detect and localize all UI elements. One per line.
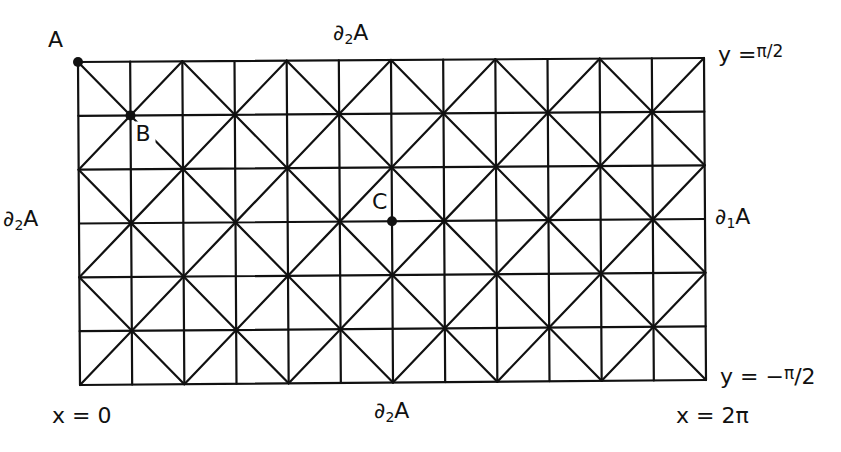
equation-prefix: y =: [718, 42, 756, 67]
set-name: A: [353, 20, 368, 45]
left-boundary-label: ∂2A: [3, 208, 38, 232]
diagonal-line: [444, 113, 497, 166]
diagonal-line: [78, 62, 131, 115]
x-two-pi-label: x = 2π: [676, 405, 749, 427]
diagonal-line: [391, 60, 444, 113]
diagonal-line: [392, 113, 444, 167]
diagonal-line: [131, 169, 183, 223]
diagonal-line: [653, 165, 705, 219]
top-line-equation: y =π/2: [718, 43, 783, 66]
diagonal-line: [548, 59, 600, 113]
diagonal-line: [184, 222, 236, 276]
diagonal-line: [601, 219, 653, 273]
partial-symbol: ∂: [374, 398, 385, 423]
diagonal-line: [79, 223, 131, 277]
subscript: 2: [385, 409, 394, 425]
point-label-c: C: [372, 191, 387, 213]
diagonal-line: [339, 114, 392, 167]
partial-symbol: ∂: [3, 206, 14, 231]
diagonal-line: [182, 61, 235, 114]
partial-symbol: ∂: [715, 204, 726, 229]
set-name: A: [735, 204, 750, 229]
diagonal-line: [602, 327, 654, 381]
diagonal-line: [495, 59, 547, 112]
equation-prefix: y = −: [720, 364, 784, 389]
diagonal-line: [444, 221, 497, 274]
diagonal-line: [445, 274, 497, 328]
diagonal-line: [236, 222, 289, 275]
diagonal-line: [549, 328, 602, 381]
diagonal-line: [288, 222, 340, 276]
bottom-boundary-label: ∂2A: [374, 400, 409, 424]
equation-value: π/2: [756, 41, 783, 61]
diagonal-line: [654, 327, 707, 380]
diagonal-line: [236, 330, 288, 383]
diagonal-line: [497, 274, 550, 327]
diagonal-line: [236, 276, 288, 330]
diagonal-line: [496, 113, 548, 167]
diagonal-line: [392, 221, 444, 275]
point-label-a: A: [48, 29, 63, 51]
diagonal-line: [79, 115, 131, 169]
diagonal-line: [131, 223, 184, 276]
point-b-marker: [126, 110, 136, 120]
diagonal-line: [497, 328, 549, 382]
diagonal-line: [392, 168, 445, 221]
subscript: 2: [14, 217, 23, 233]
diagonal-line: [549, 273, 601, 327]
diagonal-line: [444, 59, 496, 113]
equation-pi: π: [784, 363, 794, 383]
partial-symbol: ∂: [333, 20, 344, 45]
diagonal-line: [341, 329, 394, 382]
diagonal-line: [652, 58, 704, 112]
set-name: A: [23, 206, 38, 231]
diagonal-line: [183, 115, 235, 169]
diagonal-line: [392, 275, 445, 328]
diagonal-line: [183, 169, 236, 222]
diagonal-line: [80, 331, 132, 385]
subscript: 1: [726, 215, 735, 231]
subscript: 2: [344, 31, 353, 47]
top-boundary-label: ∂2A: [333, 22, 368, 46]
diagonal-line: [235, 61, 287, 115]
bottom-line-equation: y = −π/2: [720, 365, 816, 388]
diagonal-line: [445, 328, 498, 381]
diagonal-line: [184, 277, 237, 330]
diagonal-line: [131, 61, 183, 115]
diagonal-line: [444, 167, 496, 221]
x-zero-label: x = 0: [52, 405, 111, 427]
point-c-marker: [387, 216, 397, 226]
diagonal-line: [132, 277, 184, 331]
point-label-b: B: [136, 123, 151, 145]
diagonal-line: [236, 168, 288, 222]
diagonal-line: [132, 331, 185, 384]
diagonal-line: [601, 273, 654, 326]
diagonal-line: [654, 273, 706, 327]
diagonal-line: [341, 275, 393, 329]
diagonal-line: [287, 61, 340, 114]
set-name: A: [394, 398, 409, 423]
diagonal-line: [287, 114, 339, 168]
diagonal-line: [497, 220, 549, 274]
diagonal-line: [288, 276, 341, 329]
diagonal-line: [289, 329, 341, 383]
diagonal-line: [184, 330, 236, 384]
diagonal-line: [653, 219, 706, 272]
diagonal-line: [79, 170, 132, 223]
point-a-marker: [73, 57, 83, 67]
right-boundary-label: ∂1A: [715, 206, 750, 230]
diagonal-line: [600, 59, 653, 112]
diagonal-line: [496, 167, 549, 220]
diagonal-line: [393, 328, 445, 382]
diagonal-line: [600, 166, 653, 219]
diagonal-line: [339, 60, 391, 114]
diagonal-line: [600, 112, 652, 166]
diagonal-line: [548, 113, 601, 166]
diagonal-line: [235, 115, 288, 168]
equation-rest: /2: [794, 364, 815, 389]
diagonal-line: [79, 277, 131, 330]
diagonal-line: [287, 168, 340, 221]
diagonal-line: [549, 166, 601, 220]
diagonal-line: [652, 112, 705, 165]
diagonal-line: [549, 220, 602, 273]
